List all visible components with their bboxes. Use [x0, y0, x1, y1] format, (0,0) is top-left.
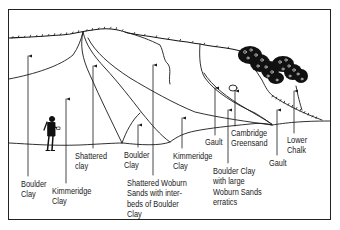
label-cambridge-greensand: Cambridge Greensand — [231, 128, 268, 149]
tree-cluster — [238, 46, 308, 84]
label-shattered-woburn-sands: Shattered Woburn Sands with inter- beds … — [127, 178, 187, 220]
label-gault-right: Gault — [269, 158, 287, 168]
woburn-sands-slip-boundary — [125, 32, 170, 84]
label-boulder-clay-erratics: Boulder Clay with large Woburn Sands err… — [213, 166, 262, 208]
erratic-boulder-icon — [229, 85, 237, 91]
label-shattered-clay: Shattered clay — [75, 151, 107, 172]
label-boulder-clay-center: Boulder Clay — [124, 150, 149, 171]
label-kimmeridge-clay-left: Kimmeridge Clay — [52, 186, 91, 207]
label-kimmeridge-clay-center: Kimmeridge Clay — [173, 151, 212, 172]
hill-surface — [9, 27, 240, 51]
label-gault-center: Gault — [205, 137, 223, 147]
boulder-clay-boundary-left — [9, 32, 83, 79]
shattered-clay-boundary-2 — [83, 32, 170, 142]
shattered-clay-boundary-1 — [82, 32, 122, 143]
label-lower-chalk: Lower Chalk — [287, 135, 307, 156]
label-boulder-clay-left: Boulder Clay — [21, 179, 46, 200]
tree-trunk — [296, 86, 302, 110]
leader-arrows — [28, 56, 294, 183]
boulder-clay-lens — [122, 113, 140, 143]
geological-cross-section-diagram: Boulder Clay Kimmeridge Clay Shattered c… — [0, 0, 340, 230]
